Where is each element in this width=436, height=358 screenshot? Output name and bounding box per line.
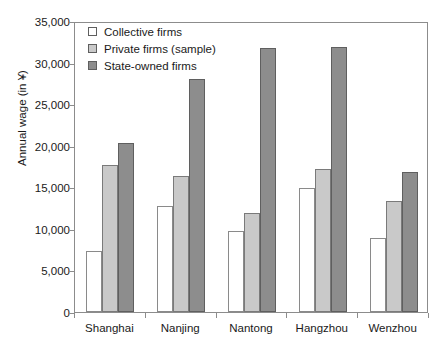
bar [189,79,205,312]
y-axis-tick-label: 20,000 [14,141,70,153]
bar [370,238,386,312]
legend-item-label: Private firms (sample) [104,43,216,55]
chart-legend: Collective firmsPrivate firms (sample)St… [88,23,216,74]
bar [157,206,173,312]
x-axis-tick-label: Shanghai [85,322,134,334]
bar [118,143,134,312]
x-axis-tick-label: Nantong [229,322,272,334]
legend-swatch-icon [88,27,97,36]
y-axis-tick-label: 30,000 [14,58,70,70]
bar-chart-figure: Annual wage (in ¥) 05,00010,00015,00020,… [0,0,436,358]
bar [331,47,347,312]
x-axis-tick-mark [145,313,146,318]
bar [315,169,331,312]
legend-item-label: Collective firms [104,26,182,38]
y-axis-tick-label: 10,000 [14,224,70,236]
bar [299,188,315,312]
y-axis-tick-label: 0 [14,307,70,319]
y-axis-tick-label: 35,000 [14,16,70,28]
x-axis-tick-mark [357,313,358,318]
bar [228,231,244,312]
legend-item-label: State-owned firms [104,60,197,72]
legend-item: Collective firms [88,23,216,40]
x-axis-tick-label: Nanjing [161,322,200,334]
y-axis-tick-label: 5,000 [14,265,70,277]
bar [244,213,260,312]
legend-swatch-icon [88,61,97,70]
y-axis-tick-label: 15,000 [14,182,70,194]
bar [102,165,118,312]
bar [260,48,276,312]
x-axis-tick-label: Wenzhou [368,322,416,334]
legend-swatch-icon [88,44,97,53]
x-axis-tick-label: Hangzhou [296,322,348,334]
x-axis-tick-mark [428,313,429,318]
x-axis-tick-mark [216,313,217,318]
bar [86,251,102,312]
bar [386,201,402,312]
legend-item: State-owned firms [88,57,216,74]
y-axis-tick-label: 25,000 [14,99,70,111]
bar [402,172,418,312]
bar [173,176,189,312]
x-axis-tick-mark [74,313,75,318]
legend-item: Private firms (sample) [88,40,216,57]
x-axis-tick-mark [286,313,287,318]
